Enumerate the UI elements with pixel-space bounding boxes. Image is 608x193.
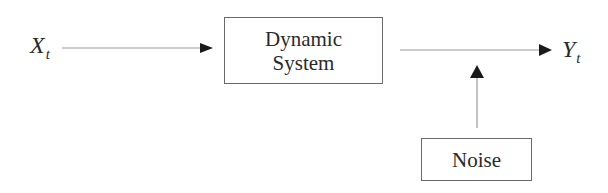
output-variable-label: Yt xyxy=(562,37,581,70)
input-arrowhead-icon xyxy=(200,43,213,53)
system-box-label-line1: Dynamic xyxy=(265,27,342,51)
dynamic-system-box: Dynamic System xyxy=(224,17,383,84)
noise-box-label: Noise xyxy=(452,148,501,172)
output-subscript: t xyxy=(576,50,580,66)
system-box-label-line2: System xyxy=(273,51,335,75)
noise-box: Noise xyxy=(421,138,532,181)
output-symbol: Y xyxy=(562,36,575,62)
input-subscript: t xyxy=(46,46,50,62)
input-variable-label: Xt xyxy=(30,33,50,66)
noise-arrowhead-icon xyxy=(470,65,484,78)
output-arrowhead-icon xyxy=(539,44,552,56)
input-symbol: X xyxy=(30,32,45,58)
